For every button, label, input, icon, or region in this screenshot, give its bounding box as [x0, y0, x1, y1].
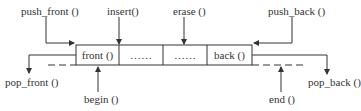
- label-push-front: push_front (): [21, 5, 79, 17]
- cell-back: back (): [207, 45, 252, 65]
- label-pop-back: pop_back (): [308, 76, 361, 88]
- cell-ellipsis-2: ……: [163, 45, 207, 65]
- push-back-arrow: [254, 17, 292, 43]
- cell-front: front (): [76, 45, 119, 65]
- label-pop-front: pop_front (): [5, 76, 58, 88]
- label-begin: begin (): [84, 93, 119, 105]
- push-front-arrow: [46, 17, 74, 43]
- label-erase: erase (): [173, 5, 206, 17]
- label-insert: insert(): [107, 5, 139, 17]
- pop-front-arrow: [29, 55, 76, 73]
- label-end: end (): [269, 93, 295, 105]
- cell-ellipsis-1: ……: [119, 45, 163, 65]
- label-push-back: push_back (): [268, 5, 325, 17]
